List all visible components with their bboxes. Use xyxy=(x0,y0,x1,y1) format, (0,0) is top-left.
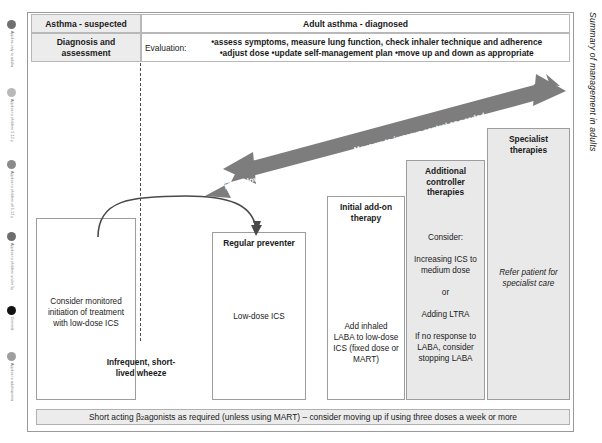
step-specialist-body: Refer patient for specialist care xyxy=(493,267,564,289)
legend-item: Applies to children under 5y xyxy=(0,232,22,290)
legend-dot-icon xyxy=(7,352,16,361)
legend-item-label: Applies to adolescents xyxy=(9,363,13,401)
step-box-additional-controller-therapies: Additional controller therapies Consider… xyxy=(406,160,485,400)
step-specialist-title: Specialist therapies xyxy=(493,134,564,155)
header-eval-row: Diagnosis and assessment Evaluation: •as… xyxy=(31,33,570,62)
step-box-initial-add-on-therapy: Initial add-on therapy Add inhaled LABA … xyxy=(327,196,405,400)
legend-item-label: General xyxy=(9,317,13,331)
legend-item-label: Applies to children 5-12 y xyxy=(9,99,13,142)
step-addon-body: Add inhaled LABA to low-dose ICS (fixed … xyxy=(333,321,399,365)
bottom-saba-bar: Short acting β2 agonists as required (un… xyxy=(36,409,570,425)
legend-dot-icon xyxy=(7,306,16,315)
evaluation-prefix: Evaluation: xyxy=(145,43,187,53)
legend-dot-icon xyxy=(7,20,16,29)
header-row-label: Diagnosis and assessment xyxy=(31,33,141,62)
evaluation-line-2: •adjust dose •update self-management pla… xyxy=(220,48,534,58)
step-additional-body: Consider: Increasing ICS to medium dose … xyxy=(412,232,479,364)
step-additional-line-3: or xyxy=(412,287,479,298)
step-consider-body: Consider monitored initiation of treatme… xyxy=(42,296,130,329)
legend-item: Applies to children 5-12 y xyxy=(0,88,22,142)
header-col-diagnosed: Adult asthma - diagnosed xyxy=(141,14,570,33)
header-title-row: Asthma - suspected Adult asthma - diagno… xyxy=(31,14,570,33)
legend-rail: Applies only to adults Applies to childr… xyxy=(0,20,22,435)
legend-item: Applies to adolescents xyxy=(0,352,22,401)
step-preventer-body: Low-dose ICS xyxy=(218,311,300,322)
legend-dot-icon xyxy=(7,88,16,97)
legend-item: General xyxy=(0,306,22,331)
step-additional-line-5: If no response to LABA, consider stoppin… xyxy=(412,331,479,364)
suspected-diagnosed-divider xyxy=(140,63,141,341)
step-additional-line-4: Adding LTRA xyxy=(412,309,479,320)
evaluation-line-1: •assess symptoms, measure lung function,… xyxy=(211,37,542,47)
side-title: Summary of management in adults xyxy=(585,12,601,222)
legend-item-label: Applies to children under 5y xyxy=(9,243,13,290)
evaluation-body: •assess symptoms, measure lung function,… xyxy=(187,37,566,59)
step-box-specialist-therapies: Specialist therapies Refer patient for s… xyxy=(487,128,570,400)
saba-prefix: Short acting β xyxy=(89,412,141,422)
header-evaluation-cell: Evaluation: •assess symptoms, measure lu… xyxy=(141,33,570,62)
legend-dot-icon xyxy=(7,232,16,241)
infrequent-wheeze-label: Infrequent, short-lived wheeze xyxy=(98,357,184,378)
legend-item: Applies to children of 5-12 y xyxy=(0,160,22,218)
asthma-management-diagram: Applies only to adults Applies to childr… xyxy=(0,0,602,443)
legend-item-label: Applies only to adults xyxy=(9,31,13,67)
header-col-suspected: Asthma - suspected xyxy=(31,14,141,33)
step-additional-line-1: Consider: xyxy=(412,232,479,243)
legend-item: Applies only to adults xyxy=(0,20,22,67)
step-additional-title: Additional controller therapies xyxy=(412,166,479,198)
header-table: Asthma - suspected Adult asthma - diagno… xyxy=(31,14,570,62)
legend-dot-icon xyxy=(7,160,16,169)
step-preventer-title: Regular preventer xyxy=(218,238,300,249)
step-box-regular-preventer: Regular preventer Low-dose ICS xyxy=(212,232,306,400)
saba-suffix: agonists as required (unless using MART)… xyxy=(144,412,517,422)
step-additional-line-2: Increasing ICS to medium dose xyxy=(412,254,479,276)
legend-item-label: Applies to children of 5-12 y xyxy=(9,171,13,218)
step-addon-title: Initial add-on therapy xyxy=(333,202,399,223)
